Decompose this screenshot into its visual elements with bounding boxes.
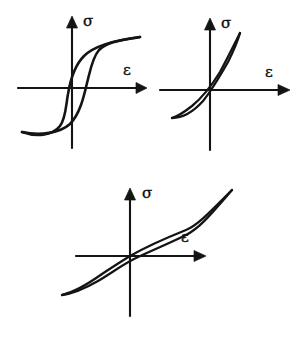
panel-narrow-stiffening-loop: σ ε: [150, 0, 300, 172]
stress-axis-arrow-icon: [67, 16, 78, 28]
stress-axis-label: σ: [221, 14, 231, 32]
loop-unloading-branch: [22, 37, 140, 134]
strain-axis-arrow-icon: [278, 85, 290, 96]
strain-axis-label: ε: [181, 228, 189, 246]
stress-axis-label: σ: [83, 12, 93, 30]
strain-axis-label: ε: [265, 63, 273, 81]
loop-upper-branch: [62, 190, 232, 295]
stress-axis-label: σ: [142, 184, 152, 202]
loop-lower-branch: [62, 190, 232, 295]
loop-loading-branch: [172, 33, 240, 118]
strain-axis-arrow-icon: [136, 83, 147, 94]
loop-loading-branch: [22, 37, 140, 135]
panel-thin-s-shaped-loop: σ ε: [40, 172, 260, 344]
loop-unloading-branch: [172, 33, 240, 118]
strain-axis-label: ε: [123, 61, 131, 79]
panel-wide-hysteresis-loop: σ ε: [0, 0, 150, 172]
stress-axis-arrow-icon: [125, 188, 136, 200]
strain-axis-arrow-icon: [194, 251, 206, 262]
stress-axis-arrow-icon: [205, 18, 216, 30]
hysteresis-figure: σ ε σ ε: [0, 0, 300, 344]
